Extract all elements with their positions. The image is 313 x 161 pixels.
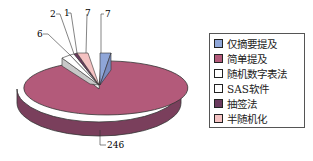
label-summary: 7	[105, 9, 111, 19]
swatch-icon	[214, 99, 223, 108]
pie-chart: 6 2 1 7 7 246	[0, 0, 205, 161]
swatch-icon	[214, 84, 223, 93]
label-big: 246	[107, 140, 124, 150]
swatch-icon	[214, 54, 223, 63]
legend-item-summary: 仅摘要提及	[214, 36, 304, 51]
legend-item-sas: SAS软件	[214, 81, 304, 96]
legend: 仅摘要提及 简单提及 随机数字表法 SAS软件 抽签法 半随机化	[209, 33, 305, 128]
label-semi: 7	[85, 8, 91, 18]
label-lottery: 1	[64, 8, 70, 18]
legend-item-simple: 简单提及	[214, 51, 304, 66]
legend-item-random-table: 随机数字表法	[214, 66, 304, 81]
swatch-icon	[214, 69, 223, 78]
label-sas: 2	[50, 9, 56, 19]
legend-item-lottery: 抽签法	[214, 96, 304, 111]
swatch-icon	[214, 39, 223, 48]
label-table: 6	[37, 29, 43, 39]
legend-item-semi: 半随机化	[214, 111, 304, 126]
swatch-icon	[214, 114, 223, 123]
